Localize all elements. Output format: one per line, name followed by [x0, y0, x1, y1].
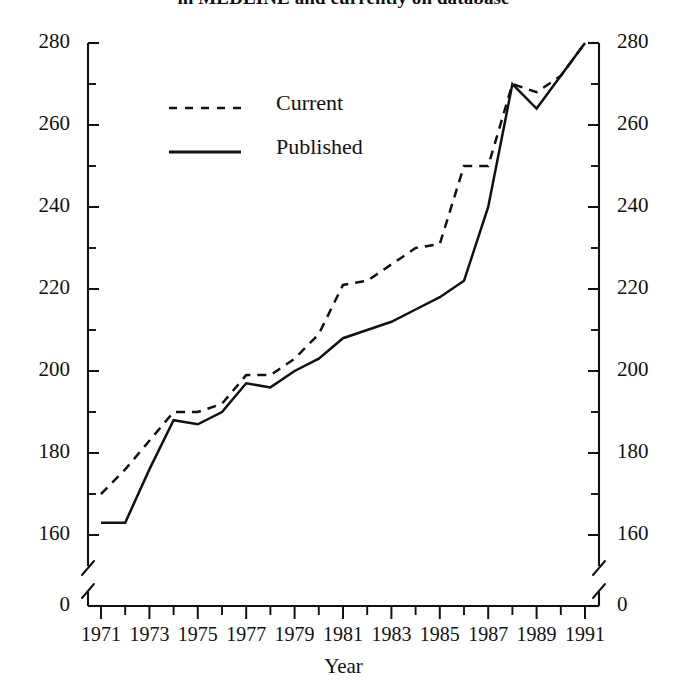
y-axis-tick-label-right-160: 160 [617, 521, 687, 546]
y-axis-tick-label-right-0: 0 [617, 592, 687, 617]
legend-swatch-dashed [168, 106, 242, 110]
x-axis-title: Year [0, 654, 687, 679]
y-axis-tick-label-right-240: 240 [617, 193, 687, 218]
y-axis-tick-label-left-200: 200 [0, 357, 70, 382]
y-axis-tick-label-right-200: 200 [617, 357, 687, 382]
legend-label-current: Current [276, 90, 343, 116]
legend-label-published: Published [276, 134, 363, 160]
y-axis-tick-label-left-280: 280 [0, 29, 70, 54]
y-axis-tick-label-right-220: 220 [617, 275, 687, 300]
chart-figure: in MEDLINE and currently on database 016… [0, 0, 687, 695]
legend-entry-current: Current [168, 90, 428, 134]
legend-entry-published: Published [168, 134, 428, 178]
y-axis-tick-label-right-260: 260 [617, 111, 687, 136]
legend-swatch-solid [168, 150, 242, 154]
y-axis-tick-label-left-180: 180 [0, 439, 70, 464]
y-axis-tick-label-left-0: 0 [0, 592, 70, 617]
y-axis-tick-label-left-220: 220 [0, 275, 70, 300]
y-axis-tick-label-left-240: 240 [0, 193, 70, 218]
y-axis-tick-label-right-280: 280 [617, 29, 687, 54]
y-axis-tick-label-right-180: 180 [617, 439, 687, 464]
x-axis-tick-label-1991: 1991 [555, 623, 615, 646]
chart-legend: Current Published [168, 90, 428, 178]
y-axis-tick-label-left-160: 160 [0, 521, 70, 546]
y-axis-tick-label-left-260: 260 [0, 111, 70, 136]
